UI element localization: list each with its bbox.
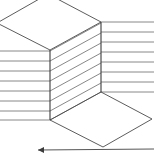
isometric-line-drawing <box>0 0 154 159</box>
figure-canvas <box>0 0 154 159</box>
